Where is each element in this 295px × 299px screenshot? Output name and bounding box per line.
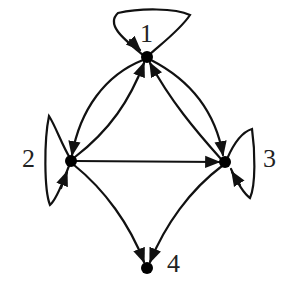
edge-1-to-2 xyxy=(72,60,143,155)
edge-2-to-1 xyxy=(75,63,144,157)
edge-3-to-4 xyxy=(150,166,222,262)
node-label-1: 1 xyxy=(140,19,153,48)
edge-3-3-arrowhead xyxy=(232,172,240,185)
node-label-2: 2 xyxy=(22,144,35,173)
node-label-3: 3 xyxy=(263,144,276,173)
node-label-4: 4 xyxy=(167,249,180,278)
edge-2-2-arrowhead xyxy=(61,172,67,188)
node-1 xyxy=(141,51,153,63)
edge-1-to-3 xyxy=(151,60,223,155)
edge-3-3-self-loop xyxy=(227,129,254,198)
edge-2-to-3 xyxy=(75,161,219,162)
edge-2-to-4 xyxy=(74,165,144,262)
directed-graph: 1 2 3 4 xyxy=(0,0,295,299)
node-3 xyxy=(219,156,231,168)
node-2 xyxy=(65,155,77,167)
node-4 xyxy=(141,262,153,274)
edge-3-to-1 xyxy=(150,63,221,159)
